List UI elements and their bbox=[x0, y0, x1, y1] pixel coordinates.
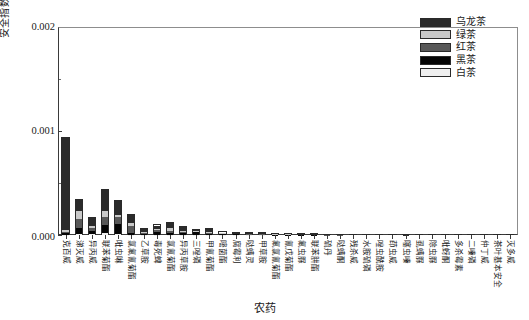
bar-group[interactable] bbox=[124, 28, 137, 235]
x-axis-tick-label: 联苯肼酯 bbox=[310, 240, 318, 272]
x-label-slot: 克百威 bbox=[59, 240, 72, 298]
x-tick-slot bbox=[386, 235, 399, 239]
bar-group[interactable] bbox=[111, 28, 124, 235]
bar-group[interactable] bbox=[98, 28, 111, 235]
x-axis-tick-label: 灭多威 bbox=[506, 240, 514, 264]
bar-segment-oolong bbox=[89, 218, 95, 227]
bar-group[interactable] bbox=[360, 28, 373, 235]
x-axis-tick-label: 氰戊菊酯 bbox=[284, 240, 292, 272]
x-tick-mark bbox=[66, 235, 67, 239]
x-tick-slot bbox=[124, 235, 137, 239]
stacked-bar[interactable] bbox=[75, 199, 83, 235]
legend-item-red[interactable]: 红茶 bbox=[420, 41, 516, 54]
x-tick-slot bbox=[59, 235, 72, 239]
bar-group[interactable] bbox=[229, 28, 242, 235]
bar-group[interactable] bbox=[59, 28, 72, 235]
legend-swatch-green bbox=[420, 30, 451, 39]
bar-group[interactable] bbox=[268, 28, 281, 235]
x-label-slot: 多杀霉素 bbox=[451, 240, 464, 298]
x-label-slot: 联苯肼酯 bbox=[307, 240, 320, 298]
x-tick-slot bbox=[190, 235, 203, 239]
x-label-slot: 氟虫脲 bbox=[294, 240, 307, 298]
bar-group[interactable] bbox=[321, 28, 334, 235]
legend-item-dark[interactable]: 黑茶 bbox=[420, 54, 516, 67]
legend-swatch-dark bbox=[420, 56, 451, 65]
x-tick-slot bbox=[137, 235, 150, 239]
x-tick-slot bbox=[438, 235, 451, 239]
bar-group[interactable] bbox=[294, 28, 307, 235]
x-tick-mark bbox=[131, 235, 132, 239]
stacked-bar[interactable] bbox=[205, 228, 213, 235]
x-label-slot: 异丙威 bbox=[85, 240, 98, 298]
legend-item-green[interactable]: 绿茶 bbox=[420, 29, 516, 42]
x-tick-slot bbox=[98, 235, 111, 239]
stacked-bar[interactable] bbox=[166, 222, 174, 235]
y-tick-label-2: 0.002 bbox=[7, 22, 55, 32]
x-tick-mark bbox=[288, 235, 289, 239]
bar-group[interactable] bbox=[307, 28, 320, 235]
stacked-bar[interactable] bbox=[101, 189, 109, 235]
bar-group[interactable] bbox=[334, 28, 347, 235]
x-tick-slot bbox=[504, 235, 517, 239]
legend-label: 黑茶 bbox=[456, 55, 476, 65]
bar-group[interactable] bbox=[281, 28, 294, 235]
legend-item-oolong[interactable]: 乌龙茶 bbox=[420, 16, 516, 29]
bar-group[interactable] bbox=[85, 28, 98, 235]
x-axis-tick-label: 多杀霉素 bbox=[454, 240, 462, 272]
x-label-slot: 硫丹 bbox=[321, 240, 334, 298]
x-label-slot: 哒螨酮 bbox=[334, 240, 347, 298]
x-axis-tick-label: 唑虫酰胺 bbox=[375, 240, 383, 272]
x-tick-slot bbox=[464, 235, 477, 239]
x-axis-title: 农药 bbox=[0, 299, 529, 315]
x-axis-tick-label: 吡虫啉 bbox=[114, 240, 122, 264]
bar-segment-red bbox=[115, 217, 121, 225]
stacked-bar[interactable] bbox=[153, 224, 161, 235]
stacked-bar[interactable] bbox=[179, 226, 187, 235]
bar-group[interactable] bbox=[72, 28, 85, 235]
x-tick-mark bbox=[406, 235, 407, 239]
bar-group[interactable] bbox=[151, 28, 164, 235]
x-label-slot: 唑虫酰胺 bbox=[373, 240, 386, 298]
bar-group[interactable] bbox=[242, 28, 255, 235]
x-tick-slot bbox=[242, 235, 255, 239]
x-axis-tick-label: 乙草胺 bbox=[140, 240, 148, 264]
x-axis-tick-label: 异丙威 bbox=[88, 240, 96, 264]
x-tick-slot bbox=[412, 235, 425, 239]
x-label-slot: 氟氯氰菊酯 bbox=[268, 240, 281, 298]
x-tick-slot bbox=[399, 235, 412, 239]
bar-group[interactable] bbox=[190, 28, 203, 235]
x-label-slot: 氰戊菊酯 bbox=[281, 240, 294, 298]
x-tick-slot bbox=[294, 235, 307, 239]
stacked-bar[interactable] bbox=[61, 137, 69, 235]
bar-segment-red bbox=[76, 219, 82, 228]
bar-group[interactable] bbox=[203, 28, 216, 235]
stacked-bar[interactable] bbox=[127, 214, 135, 235]
bar-segment-oolong bbox=[102, 190, 108, 211]
x-tick-slot bbox=[164, 235, 177, 239]
x-tick-mark bbox=[118, 235, 119, 239]
stacked-bar[interactable] bbox=[140, 228, 148, 235]
x-tick-mark bbox=[432, 235, 433, 239]
bar-group[interactable] bbox=[386, 28, 399, 235]
legend-item-white[interactable]: 白茶 bbox=[420, 66, 516, 79]
bar-group[interactable] bbox=[177, 28, 190, 235]
stacked-bar[interactable] bbox=[114, 200, 122, 235]
bar-group[interactable] bbox=[399, 28, 412, 235]
x-label-slot: 氯氰菊酯 bbox=[164, 240, 177, 298]
x-axis-tick-label: 联苯菊酯 bbox=[101, 240, 109, 272]
bar-group[interactable] bbox=[137, 28, 150, 235]
x-label-slot: 虱螨脲 bbox=[412, 240, 425, 298]
x-tick-slot bbox=[321, 235, 334, 239]
stacked-bar[interactable] bbox=[88, 217, 96, 235]
x-axis-tick-label: 茶叶基本安全 bbox=[493, 240, 501, 289]
bar-group[interactable] bbox=[373, 28, 386, 235]
bar-group[interactable] bbox=[255, 28, 268, 235]
x-tick-slot bbox=[281, 235, 294, 239]
x-axis-tick-label: 氯氟氰菊酯 bbox=[127, 240, 135, 281]
bar-group[interactable] bbox=[164, 28, 177, 235]
x-axis-tick-label: 氟虫脲 bbox=[297, 240, 305, 264]
bar-group[interactable] bbox=[347, 28, 360, 235]
y-tick-label-1: 0.001 bbox=[7, 126, 55, 136]
bar-group[interactable] bbox=[216, 28, 229, 235]
x-tick-marks bbox=[59, 235, 517, 239]
